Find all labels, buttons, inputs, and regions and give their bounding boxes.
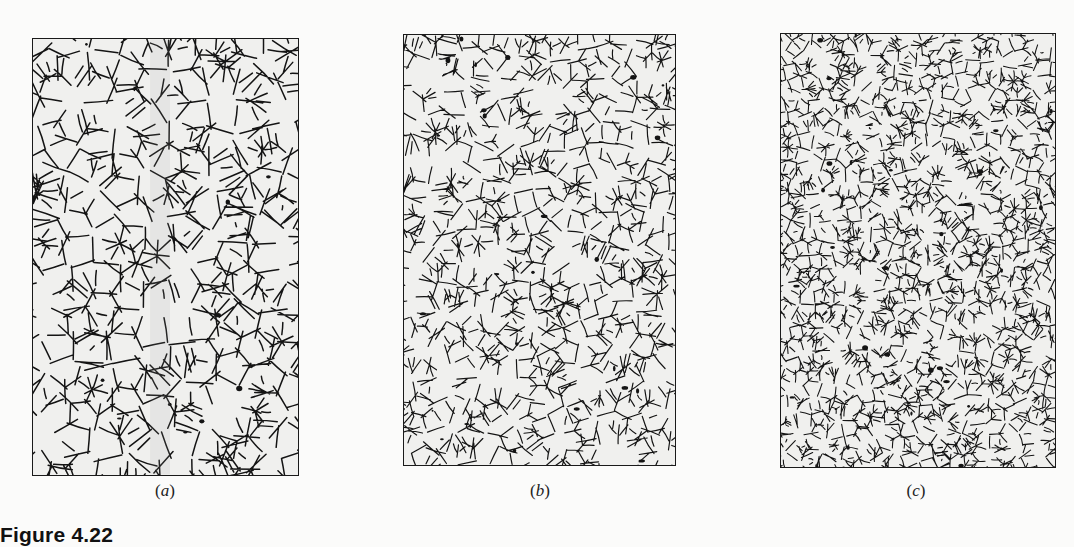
- micrograph-panel-c: [780, 33, 1056, 468]
- panel-caption-b: (b): [510, 481, 570, 501]
- panel-caption-c: (c): [886, 481, 946, 501]
- micrograph-panel-b: [403, 34, 676, 466]
- panel-caption-a: (a): [135, 481, 195, 501]
- figure-label: Figure 4.22: [0, 523, 113, 547]
- micrograph-panel-a: [32, 38, 299, 476]
- grain-structure-image-c: [781, 34, 1055, 467]
- grain-structure-image-a: [33, 39, 298, 475]
- grain-structure-image-b: [404, 35, 675, 465]
